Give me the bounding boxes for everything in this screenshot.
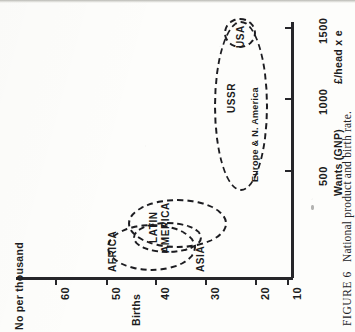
- figure-caption-label: FIGURE 6: [341, 271, 353, 326]
- wants-axis-line: [291, 22, 294, 278]
- figure-caption: FIGURE 6National product and birth rate.: [341, 111, 353, 326]
- births-tick-50: [106, 278, 108, 285]
- region-label-latin-america-line2: AMERICA: [161, 202, 171, 253]
- wants-tick-1000: [285, 98, 292, 100]
- births-tick-10: [287, 278, 289, 285]
- births-tick-60: [55, 278, 57, 285]
- region-label-asia: ASIA: [196, 246, 206, 272]
- region-label-usa: USA: [236, 25, 246, 48]
- scan-speck: [311, 205, 314, 210]
- births-ticklabel-20: 20: [260, 287, 271, 300]
- region-label-africa: AFRICA: [108, 231, 118, 272]
- births-ticklabel-40: 40: [160, 287, 171, 300]
- wants-axis-unit-label: £/head x e: [333, 30, 344, 84]
- wants-ticklabel-500: 500: [318, 166, 329, 186]
- figure-plate: 60 50 40 30 20 10 Births No per thousand…: [0, 0, 355, 332]
- births-ticklabel-60: 60: [60, 287, 71, 300]
- wants-tick-1500: [285, 27, 292, 29]
- births-tick-30: [205, 278, 207, 285]
- region-label-europe-n-america: Europe & N. America: [251, 87, 260, 182]
- births-ticklabel-50: 50: [111, 287, 122, 300]
- region-label-latin-america-line1: LATIN: [149, 211, 159, 243]
- births-ticklabel-30: 30: [210, 287, 221, 300]
- births-axis-unit-label: No per thousand: [14, 242, 25, 330]
- figure-caption-text: National product and birth rate.: [341, 111, 353, 262]
- wants-tick-500: [285, 170, 292, 172]
- births-tick-20: [255, 278, 257, 285]
- births-tick-40: [155, 278, 157, 285]
- region-label-ussr: USSR: [227, 83, 237, 113]
- wants-ticklabel-1000: 1000: [318, 89, 329, 115]
- births-ticklabel-10: 10: [292, 287, 303, 300]
- wants-ticklabel-1500: 1500: [318, 18, 329, 44]
- births-axis-title: Births: [131, 294, 142, 326]
